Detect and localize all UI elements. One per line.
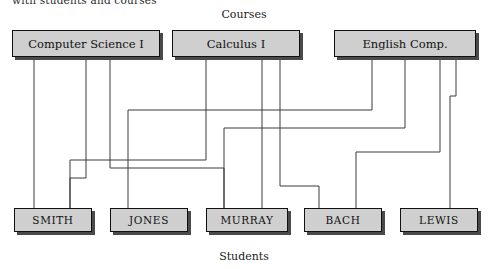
edge-calc1-to-bach <box>280 57 319 208</box>
course-node-calc1[interactable]: Calculus I <box>172 30 300 57</box>
student-node-lewis[interactable]: LEWIS <box>400 208 478 232</box>
course-node-label: English Comp. <box>362 37 447 51</box>
student-node-jones[interactable]: JONES <box>110 208 188 232</box>
student-node-label: BACH <box>326 214 361 226</box>
course-node-cs1[interactable]: Computer Science I <box>12 30 160 57</box>
student-node-label: SMITH <box>32 214 73 226</box>
edge-engl-to-lewis <box>450 57 456 208</box>
student-node-label: MURRAY <box>220 214 273 226</box>
edge-calc1-to-smith <box>70 57 206 208</box>
student-node-label: LEWIS <box>419 214 459 226</box>
edge-engl-to-murray <box>224 57 405 208</box>
student-node-label: JONES <box>129 214 169 226</box>
edge-cs1-to-jones <box>70 57 86 208</box>
diagram-canvas: with students and courses Courses Comput… <box>0 0 488 269</box>
edge-cs1-to-murray <box>110 57 224 208</box>
student-node-murray[interactable]: MURRAY <box>206 208 288 232</box>
student-node-bach[interactable]: BACH <box>304 208 382 232</box>
course-node-engl[interactable]: English Comp. <box>334 30 476 57</box>
edge-engl-to-jones <box>128 57 372 208</box>
course-node-label: Computer Science I <box>28 37 144 51</box>
student-node-smith[interactable]: SMITH <box>14 208 92 232</box>
course-node-label: Calculus I <box>207 37 265 51</box>
edge-engl-to-bach <box>356 57 440 208</box>
students-group-label: Students <box>0 250 488 263</box>
